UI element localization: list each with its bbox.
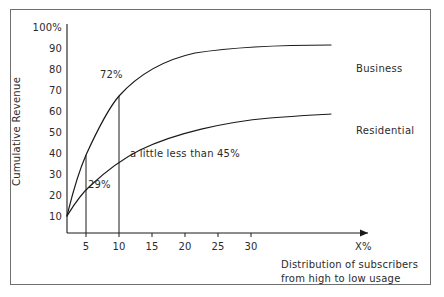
annotation-less-than-45-percent: a little less than 45% <box>130 149 240 159</box>
chart-figure: 100% 90 80 70 60 50 40 30 20 10 Cumulati… <box>0 0 444 297</box>
x-tick-marks <box>86 233 251 237</box>
y-tick-label-50: 50 <box>18 128 62 138</box>
x-tick-label-30: 30 <box>237 242 265 252</box>
x-tick-label-10: 10 <box>105 242 133 252</box>
y-tick-label-70: 70 <box>18 86 62 96</box>
y-tick-label-30: 30 <box>18 170 62 180</box>
x-axis-title: X% <box>355 242 372 252</box>
y-tick-label-20: 20 <box>18 191 62 201</box>
y-tick-label-40: 40 <box>18 149 62 159</box>
x-axis-caption-line-2: from high to low usage <box>281 274 400 284</box>
x-tick-label-15: 15 <box>138 242 166 252</box>
y-tick-label-80: 80 <box>18 65 62 75</box>
x-tick-label-5: 5 <box>72 242 100 252</box>
series-line-residential <box>67 114 331 216</box>
series-label-residential: Residential <box>356 126 414 136</box>
x-tick-label-20: 20 <box>171 242 199 252</box>
x-axis-caption-line-1: Distribution of subscribers <box>281 260 418 270</box>
y-tick-label-100: 100% <box>18 23 62 33</box>
y-tick-label-10: 10 <box>18 212 62 222</box>
y-axis-title: Cumulative Revenue <box>11 72 22 192</box>
series-label-business: Business <box>356 64 403 74</box>
y-tick-label-60: 60 <box>18 107 62 117</box>
y-tick-label-90: 90 <box>18 44 62 54</box>
annotation-29-percent: 29% <box>88 180 111 190</box>
x-tick-label-25: 25 <box>204 242 232 252</box>
annotation-72-percent: 72% <box>100 70 123 80</box>
x-axis-arrowhead <box>360 230 368 237</box>
